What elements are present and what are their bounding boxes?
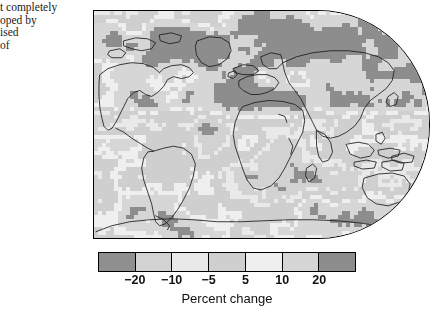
- colorbar-segment-6[interactable]: [319, 253, 355, 271]
- colorbar-swatches[interactable]: [98, 252, 356, 272]
- caption-line-1: t completely: [0, 1, 88, 14]
- colorbar-segment-0[interactable]: [99, 253, 136, 271]
- colorbar-tick-4: 10: [275, 273, 289, 288]
- colorbar-tick-3: 5: [242, 273, 249, 288]
- colorbar-tick-1: −10: [161, 273, 182, 288]
- colorbar-segment-5[interactable]: [283, 253, 320, 271]
- map-frame: [93, 10, 430, 239]
- colorbar-tick-5: 20: [312, 273, 326, 288]
- colorbar-segment-2[interactable]: [172, 253, 209, 271]
- colorbar-legend: −20−10−551020 Percent change: [93, 252, 430, 312]
- clipped-caption-text: t completely oped by ised of: [0, 1, 88, 51]
- colorbar-tick-0: −20: [124, 273, 145, 288]
- colorbar-tick-labels: −20−10−551020: [98, 273, 356, 289]
- map-panel: [93, 10, 430, 239]
- world-map-figure: −20−10−551020 Percent change: [88, 0, 438, 314]
- percent-change-raster: [94, 11, 430, 239]
- colorbar-segment-4[interactable]: [246, 253, 283, 271]
- caption-line-2: oped by: [0, 14, 88, 27]
- caption-line-3: ised: [0, 26, 88, 39]
- colorbar-axis-title: Percent change: [98, 291, 356, 307]
- colorbar-segment-1[interactable]: [136, 253, 173, 271]
- colorbar-tick-2: −5: [201, 273, 215, 288]
- caption-line-4: of: [0, 39, 88, 52]
- colorbar-segment-3[interactable]: [209, 253, 246, 271]
